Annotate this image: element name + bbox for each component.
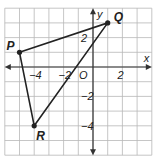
x-axis-label: x (143, 52, 150, 64)
point-q (105, 20, 110, 25)
y-tick-label: −2 (81, 90, 94, 102)
point-r (32, 123, 37, 128)
coordinate-plane: xyO−4−222−2−4PQR (0, 0, 159, 163)
x-tick-label: −2 (59, 69, 72, 81)
x-tick-label: 2 (116, 69, 123, 81)
point-label-p: P (7, 39, 16, 53)
x-tick-label: −4 (29, 69, 42, 81)
x-axis-arrow-icon (146, 64, 152, 70)
point-label-q: Q (114, 10, 124, 24)
y-axis-arrow-icon (90, 149, 96, 155)
y-axis-label: y (96, 8, 104, 20)
y-axis-arrow-icon (90, 8, 96, 14)
point-p (17, 50, 22, 55)
y-tick-label: 2 (80, 32, 87, 44)
y-tick-label: −4 (81, 120, 94, 132)
x-axis-arrow-icon (5, 64, 11, 70)
origin-label: O (79, 69, 88, 81)
point-label-r: R (36, 129, 45, 143)
